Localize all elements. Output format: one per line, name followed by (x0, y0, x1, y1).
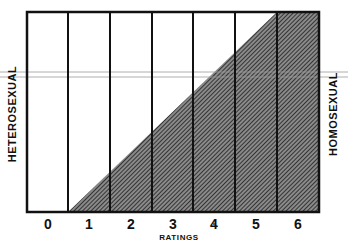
tick-label-2: 2 (121, 216, 141, 232)
tick-label-5: 5 (246, 216, 266, 232)
tick-label-1: 1 (79, 216, 99, 232)
tick-label-3: 3 (163, 216, 183, 232)
axis-title: RATINGS (139, 233, 219, 242)
rating-scale-diagram (0, 0, 348, 250)
separator-dot (213, 223, 215, 225)
tick-label-0: 0 (38, 216, 58, 232)
heterosexual-label: HETEROSEXUAL (6, 64, 18, 164)
tick-label-6: 6 (288, 216, 308, 232)
homosexual-label: HOMOSEXUAL (327, 64, 339, 164)
